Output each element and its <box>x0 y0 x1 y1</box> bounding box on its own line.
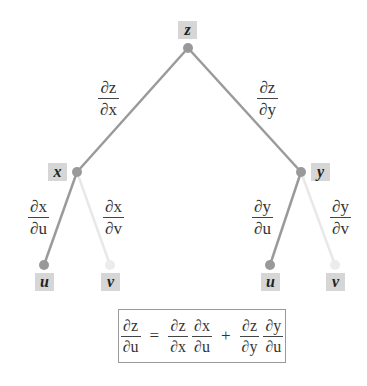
node-y: y <box>311 163 330 181</box>
numerator: ∂z <box>169 317 188 335</box>
numerator: ∂x <box>28 197 49 216</box>
numerator: ∂y <box>252 197 273 216</box>
fraction-bar <box>168 336 188 337</box>
formula-term1-b: ∂x ∂u <box>192 317 212 356</box>
edge-z-x <box>77 48 188 172</box>
label-dx-dv: ∂x ∂v <box>103 197 124 238</box>
node-dot-x <box>72 167 82 177</box>
denominator: ∂x <box>98 100 119 119</box>
formula-term2-a: ∂z ∂y <box>240 317 260 356</box>
numerator: ∂y <box>263 317 283 335</box>
numerator: ∂z <box>257 78 277 97</box>
fraction-bar <box>257 98 278 99</box>
denominator: ∂v <box>103 219 124 238</box>
denominator: ∂u <box>252 219 273 238</box>
equals-sign: = <box>145 326 165 346</box>
node-dot-z <box>183 43 193 53</box>
edge-x-u <box>44 172 77 265</box>
fraction-bar <box>103 217 124 218</box>
plus-sign: + <box>216 326 236 346</box>
label-dz-dy: ∂z ∂y <box>257 78 278 119</box>
denominator: ∂u <box>192 338 212 356</box>
node-x: x <box>48 163 67 181</box>
label-dz-dx: ∂z ∂x <box>98 78 119 119</box>
node-right-v: v <box>326 273 345 291</box>
fraction-bar <box>98 98 119 99</box>
chain-rule-formula: ∂z ∂u = ∂z ∂x ∂x ∂u + ∂z ∂y ∂y ∂u <box>118 309 286 363</box>
numerator: ∂z <box>121 317 140 335</box>
edge-y-u <box>270 172 301 265</box>
numerator: ∂z <box>98 78 118 97</box>
fraction-bar <box>192 336 212 337</box>
formula-term2-b: ∂y ∂u <box>263 317 283 356</box>
denominator: ∂y <box>240 338 260 356</box>
fraction-bar <box>263 336 283 337</box>
label-dx-du: ∂x ∂u <box>28 197 49 238</box>
node-right-u: u <box>261 273 280 291</box>
formula-lhs: ∂z ∂u <box>121 317 141 356</box>
fraction-bar <box>121 336 141 337</box>
node-dot-right-u <box>265 260 275 270</box>
edge-z-y <box>188 48 301 172</box>
denominator: ∂u <box>28 219 49 238</box>
node-dot-left-v <box>105 260 115 270</box>
numerator: ∂z <box>240 317 259 335</box>
label-dy-dv: ∂y ∂v <box>330 197 351 238</box>
node-dot-right-v <box>330 260 340 270</box>
node-left-v: v <box>101 273 120 291</box>
denominator: ∂x <box>168 338 188 356</box>
node-dot-y <box>296 167 306 177</box>
denominator: ∂v <box>330 219 351 238</box>
numerator: ∂x <box>103 197 124 216</box>
numerator: ∂y <box>330 197 351 216</box>
denominator: ∂y <box>257 100 278 119</box>
formula-term1-a: ∂z ∂x <box>168 317 188 356</box>
fraction-bar <box>252 217 273 218</box>
node-dot-left-u <box>39 260 49 270</box>
label-dy-du: ∂y ∂u <box>252 197 273 238</box>
fraction-bar <box>28 217 49 218</box>
denominator: ∂u <box>121 338 141 356</box>
fraction-bar <box>240 336 260 337</box>
node-z: z <box>178 21 197 39</box>
numerator: ∂x <box>192 317 212 335</box>
denominator: ∂u <box>263 338 283 356</box>
fraction-bar <box>330 217 351 218</box>
node-left-u: u <box>35 273 54 291</box>
